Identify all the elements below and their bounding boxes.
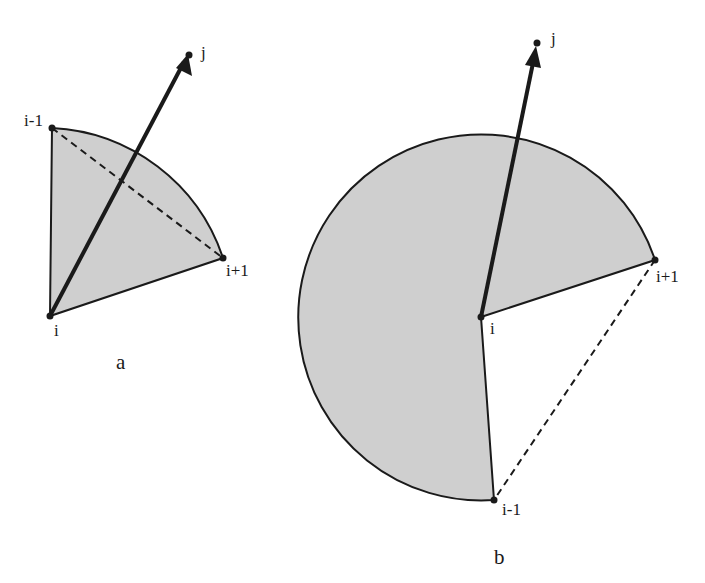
label-i-plus-1-b: i+1 — [656, 267, 679, 286]
caption-a: a — [116, 350, 126, 374]
point-i-plus-1-b — [652, 257, 659, 264]
label-j-a: j — [200, 43, 206, 62]
point-j-a — [186, 52, 193, 59]
point-i-a — [47, 313, 54, 320]
label-i-plus-1-a: i+1 — [226, 261, 249, 280]
point-i-minus-1-a — [49, 125, 56, 132]
point-i-minus-1-b — [491, 497, 498, 504]
arrowhead-icon — [525, 46, 541, 68]
point-i-b — [478, 314, 485, 321]
label-j-b: j — [550, 29, 556, 48]
point-j-b — [534, 40, 541, 47]
label-i-minus-1-a: i-1 — [24, 111, 43, 130]
diagram-canvas: i i-1 i+1 j a i i+1 i-1 j b — [0, 0, 705, 583]
label-i-a: i — [54, 321, 59, 340]
sector-b — [298, 134, 655, 500]
label-i-b: i — [490, 319, 495, 338]
panel-a: i i-1 i+1 j a — [24, 43, 249, 374]
panel-b: i i+1 i-1 j b — [298, 29, 679, 569]
caption-b: b — [494, 545, 505, 569]
label-i-minus-1-b: i-1 — [502, 500, 521, 519]
